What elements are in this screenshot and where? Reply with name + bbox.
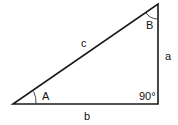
side-b-label: b (84, 110, 90, 122)
side-a-label: a (165, 50, 172, 62)
right-triangle-diagram: c a b A B 90° (0, 0, 178, 125)
right-angle-label: 90° (139, 90, 156, 102)
triangle-outline (13, 4, 158, 104)
side-c-label: c (81, 37, 87, 49)
angle-a-arc (34, 92, 36, 105)
angle-b-label: B (146, 19, 153, 31)
angle-a-label: A (42, 90, 50, 102)
